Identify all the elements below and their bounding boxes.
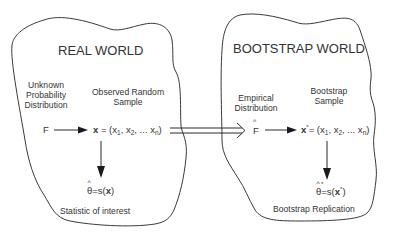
bootstrap-diagram: REAL WORLD BOOTSTRAP WORLD Unknown Proba…	[0, 0, 397, 239]
bootstrap-sample-formula: x*= (x1, x2, ... xn)	[301, 124, 369, 136]
svg-text:Observed Random: Observed Random	[92, 87, 164, 97]
svg-text:Distribution: Distribution	[25, 100, 68, 110]
svg-text:Sample: Sample	[314, 96, 343, 106]
bootstrap-world-title: BOOTSTRAP WORLD	[233, 41, 365, 56]
arrow-head-icon	[97, 166, 105, 178]
svg-text:Distribution: Distribution	[235, 103, 278, 113]
distribution-symbol-F: F	[43, 124, 49, 135]
real-world-title: REAL WORLD	[58, 43, 143, 58]
bootstrap-sample-label: Bootstrap Sample	[311, 86, 348, 106]
empirical-distribution-symbol: F	[253, 125, 259, 136]
unknown-distribution-label: Unknown Probability Distribution	[25, 80, 68, 110]
arrow-head-icon	[78, 127, 88, 134]
observed-sample-formula: x = (x1, x2, ... xn)	[93, 124, 162, 136]
svg-text:Sample: Sample	[113, 97, 142, 107]
arrow-head-icon	[323, 168, 331, 180]
statistic-formula: θ=s(x)	[87, 185, 114, 196]
statistic-of-interest-label: Statistic of interest	[60, 206, 131, 216]
svg-text:Unknown: Unknown	[28, 80, 64, 90]
bootstrap-replication-formula: θ=s(x*)	[316, 186, 346, 197]
observed-sample-label: Observed Random Sample	[92, 87, 164, 107]
F-hat-accent: ^	[253, 118, 257, 125]
svg-text:Empirical: Empirical	[238, 93, 273, 103]
svg-text:Probability: Probability	[26, 90, 67, 100]
bootstrap-replication-label: Bootstrap Replication	[273, 204, 355, 214]
empirical-distribution-label: Empirical Distribution	[235, 93, 278, 113]
svg-text:Bootstrap: Bootstrap	[311, 86, 348, 96]
arrow-head-icon	[287, 127, 297, 134]
